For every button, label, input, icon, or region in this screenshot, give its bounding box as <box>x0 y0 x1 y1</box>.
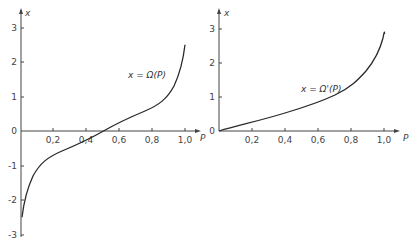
right-x-arrow-icon <box>394 129 400 133</box>
right-plot: x P 3 2 1 0 0,2 0,4 0,6 0,8 1,0 x = Ω'(P… <box>209 8 409 145</box>
left-xtick-0.2: 0,2 <box>46 135 60 145</box>
right-xtick-0.2: 0,2 <box>245 135 259 145</box>
left-ytick-2: 2 <box>11 57 17 67</box>
left-ytick-neg2: -2 <box>8 195 17 205</box>
left-ytick-0: 0 <box>11 126 17 136</box>
right-xtick-0.6: 0,6 <box>311 135 326 145</box>
left-ytick-neg1: -1 <box>8 161 17 171</box>
left-xtick-1.0: 1,0 <box>178 135 193 145</box>
right-xtick-0.4: 0,4 <box>278 135 293 145</box>
left-x-axis-label: P <box>200 133 206 143</box>
right-ytick-1: 1 <box>209 92 215 102</box>
right-curve-annotation: x = Ω'(P) <box>300 84 341 94</box>
right-ytick-2: 2 <box>209 58 215 68</box>
left-plot: x P 3 2 1 0 -1 -2 -3 0,2 0, <box>8 8 206 240</box>
right-xtick-1.0: 1,0 <box>377 135 392 145</box>
right-y-axis-label: x <box>223 8 230 18</box>
left-ytick-neg3: -3 <box>8 230 17 240</box>
left-ytick-1: 1 <box>11 92 17 102</box>
right-curve-omega-prime <box>219 32 385 131</box>
left-y-axis-label: x <box>24 8 31 18</box>
figure: x P 3 2 1 0 -1 -2 -3 0,2 0, <box>0 0 414 240</box>
right-xtick-0.8: 0,8 <box>344 135 359 145</box>
left-xtick-0.6: 0,6 <box>112 135 127 145</box>
right-ytick-3: 3 <box>209 24 215 34</box>
left-xtick-0.8: 0,8 <box>145 135 160 145</box>
left-curve-annotation: x = Ω(P) <box>127 70 166 80</box>
right-y-ticks: 3 2 1 0 <box>209 24 222 136</box>
right-x-axis-label: P <box>403 133 409 143</box>
left-y-arrow-icon <box>19 8 23 14</box>
right-y-arrow-icon <box>217 8 221 14</box>
right-ytick-0: 0 <box>209 126 215 136</box>
left-ytick-3: 3 <box>11 23 17 33</box>
